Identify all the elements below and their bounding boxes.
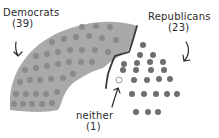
republicans-dots xyxy=(120,42,180,115)
neither-arrow-icon xyxy=(112,88,120,107)
neither-count: (1) xyxy=(76,121,113,132)
neither-label: neither (1) xyxy=(76,110,113,132)
republicans-label: Republicans (23) xyxy=(148,11,211,33)
republicans-count: (23) xyxy=(148,22,211,33)
democrats-arrow-icon xyxy=(14,42,22,56)
neither-dot xyxy=(116,77,122,83)
democrats-label: Democrats (39) xyxy=(3,7,59,29)
seat-chart-diagram: Democrats (39) Republicans (23) neither … xyxy=(0,0,219,138)
neither-name: neither xyxy=(76,110,113,121)
republicans-name: Republicans xyxy=(148,11,211,22)
republicans-arrow-icon xyxy=(183,42,190,61)
democrats-count: (39) xyxy=(3,18,59,29)
democrats-name: Democrats xyxy=(3,7,59,18)
